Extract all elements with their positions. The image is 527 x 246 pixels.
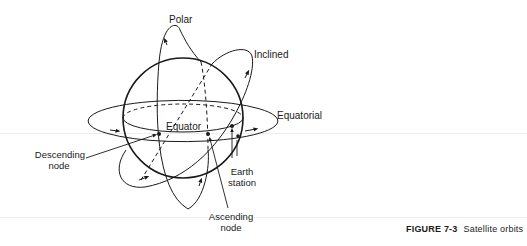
descending-node-label-line2: node — [33, 160, 85, 171]
inclined-label: Inclined — [254, 49, 288, 60]
orbit-crossing-dot — [236, 134, 240, 138]
polar-orbit-back — [201, 62, 208, 150]
descending-node-leader — [86, 135, 155, 158]
figure-number: FIGURE 7-3 — [406, 224, 458, 234]
figure-caption-text: Satellite orbits — [464, 224, 524, 234]
earth-station-dot — [230, 124, 234, 128]
polar-label: Polar — [169, 14, 192, 25]
earth-station-label-line1: Earth — [222, 166, 262, 177]
equatorial-label: Equatorial — [277, 110, 322, 121]
ascending-node-dot — [206, 132, 210, 136]
equator-label: Equator — [166, 121, 201, 132]
descending-node-dot — [157, 132, 161, 136]
earth-station-label: Earth station — [222, 166, 262, 188]
earth-sphere — [123, 58, 243, 178]
satellite-orbits-diagram — [0, 0, 527, 246]
polar-orbit-top — [159, 25, 201, 62]
earth-station-label-line2: station — [222, 177, 262, 188]
descending-node-label-line1: Descending — [33, 149, 85, 160]
ascending-node-label-line1: Ascending — [206, 211, 256, 222]
ascending-node-label-line2: node — [206, 222, 256, 233]
polar-orbit-front — [157, 62, 208, 209]
descending-node-label: Descending node — [33, 149, 85, 171]
ascending-node-label: Ascending node — [206, 211, 256, 233]
figure-caption: FIGURE 7-3Satellite orbits — [406, 224, 523, 234]
